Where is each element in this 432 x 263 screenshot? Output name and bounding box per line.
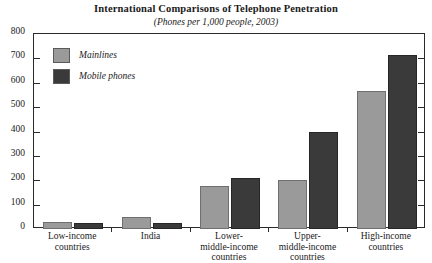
x-axis-category-label: India: [111, 231, 189, 242]
x-axis-category-label-line: Lower-: [190, 231, 268, 242]
bar-group: [357, 34, 417, 229]
y-axis-tick-label: 600: [11, 75, 25, 85]
bar-mobile-phones: [388, 55, 417, 229]
x-axis-category-label-line: Upper-: [268, 231, 346, 242]
x-axis-category-label: High-incomecountries: [347, 231, 425, 252]
bar-mobile-phones: [309, 132, 338, 230]
x-axis: Low-incomecountriesIndiaLower-middle-inc…: [33, 228, 425, 258]
x-axis-category-label-line: countries: [268, 252, 346, 263]
bar-mainlines: [200, 186, 229, 229]
y-axis-tick-label: 300: [11, 148, 25, 158]
bar-mainlines: [357, 91, 386, 229]
y-axis-tick-label: 400: [11, 124, 25, 134]
y-axis-tick-label: 0: [20, 221, 25, 231]
page-title: International Comparisons of Telephone P…: [0, 2, 432, 15]
x-axis-category-label-line: Low-income: [33, 231, 111, 242]
x-axis-category-label-line: countries: [33, 242, 111, 253]
x-axis-category-label-line: countries: [190, 252, 268, 263]
bar-group: [200, 34, 260, 229]
bar-mobile-phones: [231, 178, 260, 229]
bars-layer: [34, 34, 426, 229]
bar-group: [43, 34, 103, 229]
x-axis-category-label: Low-incomecountries: [33, 231, 111, 252]
bar-group: [122, 34, 182, 229]
y-axis-tick-label: 200: [11, 172, 25, 182]
bar-mainlines: [278, 180, 307, 229]
plot-area: Mainlines Mobile phones: [33, 33, 425, 228]
x-axis-category-label-line: India: [111, 231, 189, 242]
x-axis-category-label-line: countries: [347, 242, 425, 253]
y-axis-tick-label: 500: [11, 99, 25, 109]
x-axis-category-label-line: High-income: [347, 231, 425, 242]
y-axis: 8007006005004003002001000: [0, 33, 33, 228]
x-axis-category-label-line: middle-income: [268, 242, 346, 253]
chart-subtitle: (Phones per 1,000 people, 2003): [0, 16, 432, 28]
x-axis-category-label: Lower-middle-incomecountries: [190, 231, 268, 263]
y-axis-tick-label: 800: [11, 26, 25, 36]
title-block: International Comparisons of Telephone P…: [0, 2, 432, 28]
x-axis-category-label: Upper-middle-incomecountries: [268, 231, 346, 263]
x-axis-category-label-line: middle-income: [190, 242, 268, 253]
y-axis-tick-label: 100: [11, 197, 25, 207]
y-axis-tick-label: 700: [11, 50, 25, 60]
bar-group: [278, 34, 338, 229]
